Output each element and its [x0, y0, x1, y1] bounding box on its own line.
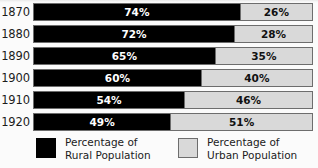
bar-track: 65% 35%	[33, 47, 313, 65]
legend-item-urban: Percentage of Urban Population	[178, 136, 297, 162]
bar-value-rural: 74%	[124, 6, 149, 18]
bar-track: 72% 28%	[33, 25, 313, 43]
bar-track: 60% 40%	[33, 69, 313, 87]
legend-label-rural-line2: Rural Population	[65, 149, 151, 162]
table-row: 1920 49% 51%	[0, 113, 318, 131]
bar-segment-rural: 54%	[34, 92, 184, 108]
bar-value-rural: 72%	[122, 28, 147, 40]
row-year-label: 1910	[0, 91, 30, 109]
bar-track: 54% 46%	[33, 91, 313, 109]
bar-value-urban: 28%	[261, 28, 286, 40]
bar-segment-urban: 35%	[215, 48, 312, 64]
legend-label-urban-line1: Percentage of	[207, 136, 297, 149]
legend-label-urban-line2: Urban Population	[207, 149, 297, 162]
bar-segment-rural: 60%	[34, 70, 201, 86]
bar-value-rural: 54%	[96, 94, 121, 106]
legend-label-rural-line1: Percentage of	[65, 136, 151, 149]
bar-segment-rural: 49%	[34, 114, 170, 130]
bar-segment-rural: 74%	[34, 4, 240, 20]
table-row: 1910 54% 46%	[0, 91, 318, 109]
table-row: 1900 60% 40%	[0, 69, 318, 87]
legend-label-urban: Percentage of Urban Population	[207, 136, 297, 162]
bar-value-urban: 40%	[244, 72, 269, 84]
bar-track: 49% 51%	[33, 113, 313, 131]
bar-segment-urban: 26%	[240, 4, 312, 20]
row-year-label: 1900	[0, 69, 30, 87]
black-square-swatch-icon	[36, 138, 56, 158]
bar-value-rural: 49%	[90, 116, 115, 128]
bar-segment-urban: 28%	[234, 26, 312, 42]
bar-value-urban: 35%	[251, 50, 276, 62]
stacked-bar-chart: 1870 74% 26% 1880 72% 28%	[0, 0, 318, 168]
row-year-label: 1890	[0, 47, 30, 65]
bar-value-urban: 46%	[236, 94, 261, 106]
gray-square-swatch-icon	[178, 138, 198, 158]
bar-value-rural: 65%	[112, 50, 137, 62]
bar-track: 74% 26%	[33, 3, 313, 21]
bar-value-urban: 51%	[229, 116, 254, 128]
legend-label-rural: Percentage of Rural Population	[65, 136, 151, 162]
table-row: 1880 72% 28%	[0, 25, 318, 43]
bar-segment-urban: 40%	[201, 70, 312, 86]
chart-legend: Percentage of Rural Population Percentag…	[0, 136, 318, 168]
bar-segment-rural: 65%	[34, 48, 215, 64]
bar-segment-urban: 51%	[170, 114, 312, 130]
table-row: 1890 65% 35%	[0, 47, 318, 65]
bar-value-rural: 60%	[105, 72, 130, 84]
chart-rows: 1870 74% 26% 1880 72% 28%	[0, 3, 318, 135]
row-year-label: 1870	[0, 3, 30, 21]
row-year-label: 1920	[0, 113, 30, 131]
row-year-label: 1880	[0, 25, 30, 43]
bar-segment-rural: 72%	[34, 26, 234, 42]
bar-segment-urban: 46%	[184, 92, 312, 108]
legend-item-rural: Percentage of Rural Population	[36, 136, 151, 162]
table-row: 1870 74% 26%	[0, 3, 318, 21]
bar-value-urban: 26%	[264, 6, 289, 18]
